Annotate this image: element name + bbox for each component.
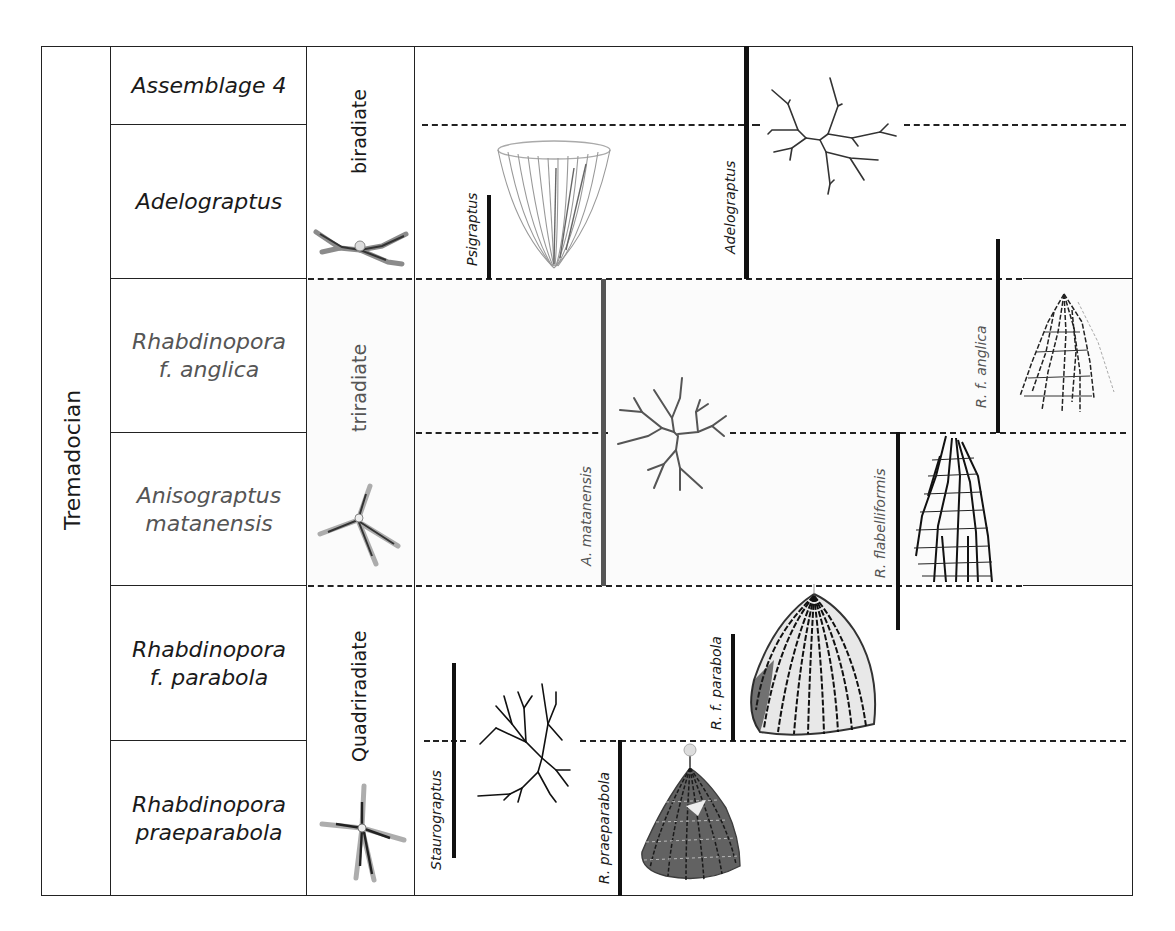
range-bar-adelograptus — [744, 46, 749, 279]
column-divider-stage — [110, 46, 111, 896]
chart-boundary-1b — [752, 124, 760, 126]
quadriradiate-icon — [316, 782, 406, 884]
range-bar-staurograptus — [452, 663, 456, 858]
morph-label-triradiate: triradiate — [348, 344, 370, 432]
zone-name-line2: f. anglica — [159, 356, 260, 384]
chart-boundary-2a — [416, 278, 1022, 280]
staurograptus-fossil-icon — [476, 684, 572, 802]
r-flabelliformis-fossil-icon — [912, 436, 998, 586]
zone-boundary-3 — [110, 432, 306, 433]
zone-name: Adelograptus — [136, 188, 283, 216]
zone-name: Rhabdinopora — [132, 328, 286, 356]
psigraptus-fossil-icon — [496, 138, 612, 272]
zone-name-line2: praeparabola — [135, 819, 282, 847]
r-praeparabola-fossil-icon — [636, 742, 746, 884]
taxon-label-r-f-parabola: R. f. parabola — [708, 636, 724, 730]
range-bar-r-f-parabola — [731, 634, 735, 741]
r-f-parabola-fossil-icon — [744, 590, 882, 740]
chart-boundary-5a — [424, 740, 466, 742]
taxon-label-staurograptus: Staurograptus — [428, 770, 444, 870]
zone-label-rhabdinopora-anglica: Rhabdinopora f. anglica — [112, 280, 306, 432]
morph-label-quadriradiate: Quadriradiate — [348, 631, 370, 762]
taxon-label-a-matanensis: A. matanensis — [578, 466, 594, 566]
zone-name-line2: f. parabola — [150, 664, 268, 692]
stage-label: Tremadocian — [60, 390, 85, 530]
zone-name: Anisograptus — [137, 482, 282, 510]
triradiate-icon — [314, 480, 404, 572]
biradiate-icon — [310, 222, 410, 272]
range-chart: Tremadocian Assemblage 4 Adelograptus Rh… — [0, 0, 1175, 931]
taxon-label-adelograptus: Adelograptus — [722, 161, 738, 254]
zone-boundary-4 — [110, 585, 306, 586]
range-bar-a-matanensis — [601, 279, 606, 586]
taxon-label-r-praeparabola: R. praeparabola — [596, 772, 612, 884]
chart-boundary-2b — [1023, 278, 1132, 279]
chart-boundary-1a — [422, 124, 744, 126]
zone-label-anisograptus-matanensis: Anisograptus matanensis — [112, 434, 306, 585]
taxon-label-r-f-anglica: R. f. anglica — [973, 325, 989, 408]
zone-name: Assemblage 4 — [132, 72, 287, 100]
chart-boundary-4b — [1023, 585, 1132, 586]
zone-label-rhabdinopora-praeparabola: Rhabdinopora praeparabola — [112, 742, 306, 895]
morph-boundary-1 — [308, 278, 412, 280]
chart-boundary-3a — [416, 432, 608, 434]
range-bar-r-flabelliformis — [896, 432, 900, 630]
range-bar-r-praeparabola — [618, 740, 622, 896]
zone-label-rhabdinopora-parabola: Rhabdinopora f. parabola — [112, 587, 306, 740]
taxon-label-r-flabelliformis: R. flabelliformis — [872, 469, 888, 579]
taxon-label-psigraptus: Psigraptus — [464, 193, 480, 266]
zone-name: Rhabdinopora — [132, 636, 286, 664]
chart-boundary-3b — [730, 432, 1126, 434]
zone-boundary-5 — [110, 740, 306, 741]
column-divider-zone — [306, 46, 307, 896]
zone-label-adelograptus: Adelograptus — [112, 126, 306, 278]
zone-boundary-2 — [110, 278, 306, 279]
zone-name: Rhabdinopora — [132, 791, 286, 819]
range-bar-r-f-anglica — [996, 239, 1000, 433]
column-divider-morphology — [414, 46, 415, 896]
zone-name-line2: matanensis — [145, 510, 272, 538]
chart-boundary-1c — [904, 124, 1126, 126]
zone-label-assemblage-4: Assemblage 4 — [112, 48, 306, 124]
zone-boundary-1 — [110, 124, 306, 125]
a-matanensis-fossil-icon — [618, 378, 730, 498]
range-bar-psigraptus — [487, 195, 491, 279]
morph-label-biradiate: biradiate — [348, 89, 370, 174]
r-f-anglica-fossil-icon — [1018, 292, 1118, 422]
morph-boundary-2 — [308, 585, 412, 587]
adelograptus-fossil-icon — [768, 74, 908, 204]
